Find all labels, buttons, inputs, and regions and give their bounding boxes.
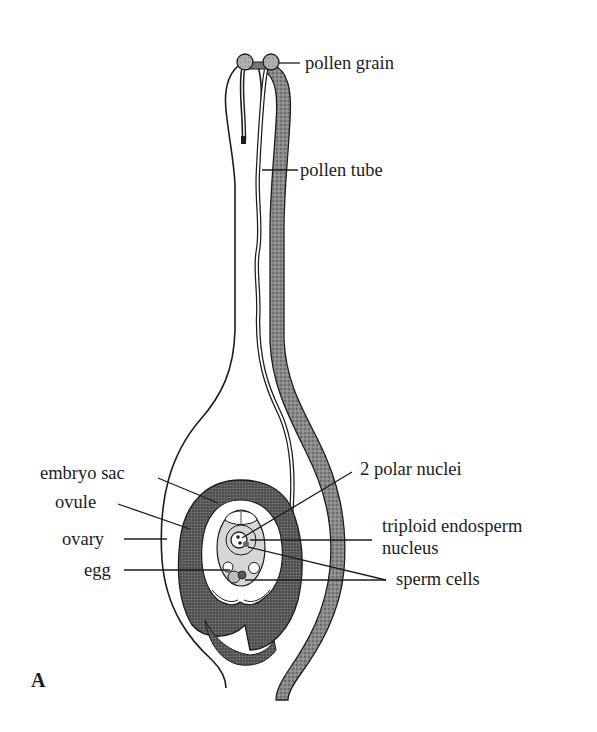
label-endosperm-line1: triploid endosperm	[382, 516, 523, 536]
pistil-diagram: pollen grain pollen tube embryo sac ovul…	[0, 0, 597, 732]
label-endosperm-line2: nucleus	[382, 538, 439, 558]
label-pollen-tube: pollen tube	[300, 160, 383, 180]
pollen-grains	[237, 54, 279, 70]
label-ovary: ovary	[62, 529, 105, 549]
label-egg: egg	[84, 560, 111, 580]
label-pollen-grain: pollen grain	[305, 53, 394, 73]
label-sperm-cells: sperm cells	[396, 569, 480, 589]
label-embryo-sac: embryo sac	[40, 463, 125, 483]
label-polar-nuclei: 2 polar nuclei	[360, 459, 462, 479]
label-ovule: ovule	[55, 492, 96, 512]
panel-label: A	[31, 669, 46, 691]
